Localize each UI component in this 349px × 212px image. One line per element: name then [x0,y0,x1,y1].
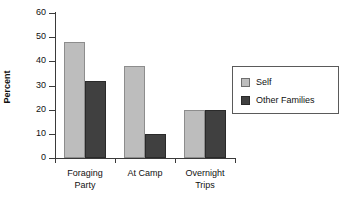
bar-chart: Percent 6050403020100 ForagingPartyAt Ca… [0,0,349,212]
self-color-swatch [241,78,250,87]
x-axis-tick-mark [115,158,116,163]
x-axis-line [55,158,236,159]
y-axis-tick-mark [49,86,55,87]
x-axis-label-line2: Party [47,179,123,191]
x-axis-label-overnight-trips: OvernightTrips [167,167,243,191]
bar-other-families-foraging-party [85,81,106,158]
legend-item-self: Self [241,73,338,91]
y-axis-tick-label-text: 40 [22,56,46,65]
y-axis-tick-mark [49,110,55,111]
y-axis-line [55,12,56,159]
y-axis-tick-label-text: 60 [22,8,46,17]
bar-other-families-overnight-trips [205,110,226,158]
other-families-color-swatch [241,96,250,105]
y-axis-tick-mark [49,61,55,62]
bar-other-families-at-camp [145,134,166,158]
y-axis-tick-label: 60 [22,8,46,17]
y-axis-tick-mark [49,13,55,14]
y-axis-tick-mark [49,37,55,38]
x-axis-tick-mark [235,158,236,163]
bar-self-overnight-trips [184,110,205,158]
y-axis-tick-label-text: 30 [22,81,46,90]
y-axis-tick-label: 20 [22,105,46,114]
y-axis-tick-label: 10 [22,129,46,138]
y-axis-tick-label-text: 20 [22,105,46,114]
y-axis-tick-label-text: 0 [22,153,46,162]
legend-label-other-families: Other Families [256,95,315,105]
y-axis-title: Percent [2,52,12,122]
y-axis-tick-mark [49,134,55,135]
chart-legend: Self Other Families [232,66,339,114]
x-axis-tick-mark [175,158,176,163]
y-axis-tick-label: 30 [22,81,46,90]
bar-self-at-camp [124,66,145,158]
y-axis-tick-label: 50 [22,32,46,41]
x-axis-label-line1: Overnight [167,167,243,179]
legend-label-self: Self [256,77,272,87]
y-axis-tick-label: 0 [22,153,46,162]
y-axis-tick-label-text: 50 [22,32,46,41]
bar-self-foraging-party [64,42,85,158]
y-axis-tick-label: 40 [22,56,46,65]
x-axis-tick-mark [55,158,56,163]
x-axis-label-line2: Trips [167,179,243,191]
y-axis-tick-label-text: 10 [22,129,46,138]
legend-item-other-families: Other Families [241,91,338,109]
